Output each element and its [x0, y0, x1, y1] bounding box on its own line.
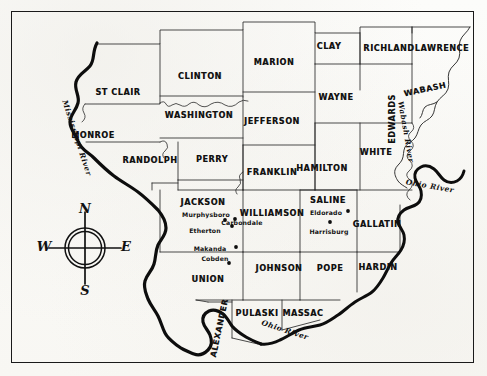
map-frame — [11, 11, 474, 363]
county-map: ST CLAIRCLINTONMONROEWASHINGTONRANDOLPHP… — [0, 0, 487, 376]
